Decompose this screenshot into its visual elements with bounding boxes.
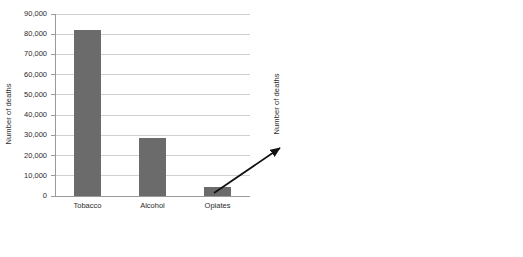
bar-tobacco <box>74 30 101 196</box>
y-axis-spine <box>55 14 56 196</box>
gridline <box>55 14 250 15</box>
y-axis-tick-label: 40,000 <box>5 111 47 119</box>
y-axis-tick-label: 90,000 <box>5 10 47 18</box>
y-axis-tick-label: 70,000 <box>5 50 47 58</box>
y-axis-tick-label: 10,000 <box>5 172 47 180</box>
chart-panel-left: Number of deaths 010,00020,00030,00040,0… <box>0 0 262 257</box>
y-axis-tick-label: 60,000 <box>5 71 47 79</box>
bar-alcohol <box>139 138 166 196</box>
bar-opiates <box>204 187 231 196</box>
y-axis-title-right: Number of deaths <box>272 75 281 135</box>
figure-root: Number of deaths 010,00020,00030,00040,0… <box>0 0 523 257</box>
y-axis-tick-label: 20,000 <box>5 152 47 160</box>
y-axis-tick-label: 30,000 <box>5 131 47 139</box>
y-axis-tick-label: 80,000 <box>5 30 47 38</box>
x-axis-tick-label: Opiates <box>175 202 260 210</box>
chart-panel-right: Number of deaths 02004006008001,0001,200… <box>262 0 523 257</box>
plot-area-left: 010,00020,00030,00040,00050,00060,00070,… <box>55 14 250 196</box>
y-axis-tick-label: 50,000 <box>5 91 47 99</box>
y-axis-tick-label: 0 <box>5 192 47 200</box>
